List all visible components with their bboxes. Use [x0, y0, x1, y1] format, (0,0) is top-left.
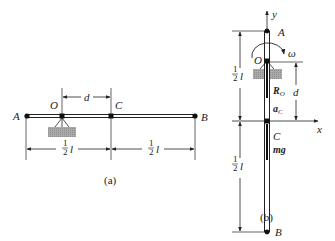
svg-text:2: 2 [149, 147, 154, 157]
label-a: A [277, 26, 285, 38]
dimension-half-lower: 1 2 l [232, 122, 243, 231]
svg-text:l: l [156, 143, 159, 155]
accel-label: aC [273, 103, 283, 116]
reaction-label: RO [272, 85, 285, 98]
label-b: B [201, 111, 208, 123]
dimension-half-upper: 1 2 l [232, 32, 243, 120]
vertical-rod [265, 29, 270, 235]
svg-text:l: l [240, 160, 243, 172]
weight-label: mg [273, 144, 286, 155]
figure-b: y x ω 1 2 l [232, 8, 322, 238]
label-a: A [12, 110, 20, 122]
svg-text:2: 2 [63, 147, 68, 157]
svg-text:l: l [240, 70, 243, 82]
svg-text:d: d [293, 86, 299, 98]
svg-text:x: x [316, 123, 322, 135]
label-c: C [273, 130, 281, 142]
dimension-d: d [63, 91, 110, 103]
label-o: O [50, 99, 58, 111]
label-o: O [254, 54, 262, 66]
pivot-support [48, 118, 76, 137]
ground-block [48, 127, 76, 137]
dimension-half-right: 1 2 l [112, 138, 194, 157]
dimension-d: d [293, 63, 299, 120]
caption-b: (b) [260, 211, 273, 224]
dimension-half-left: 1 2 l [27, 138, 110, 157]
svg-text:y: y [271, 8, 277, 20]
pivot-o-marker [60, 114, 65, 119]
svg-text:ω: ω [288, 47, 296, 59]
caption-a: (a) [104, 174, 117, 187]
label-c: C [115, 99, 123, 111]
svg-text:d: d [84, 91, 90, 103]
rod-pivot-diagram: d 1 2 l 1 2 l A O C B (a) y x [0, 0, 335, 241]
label-b: B [275, 226, 282, 238]
figure-a: d 1 2 l 1 2 l A O C B (a) [12, 88, 208, 187]
svg-text:2: 2 [233, 73, 238, 83]
svg-text:2: 2 [233, 163, 238, 173]
svg-text:l: l [70, 143, 73, 155]
